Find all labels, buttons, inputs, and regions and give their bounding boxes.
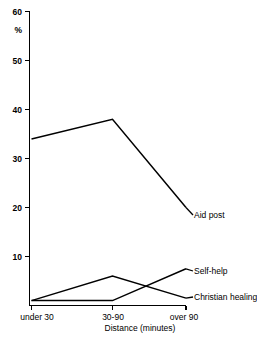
leader-line-christian-healing <box>186 297 193 298</box>
y-tick-label-20: 20 <box>13 203 23 213</box>
x-tick-label-30-90: 30-90 <box>102 312 124 322</box>
y-axis-unit-label: % <box>14 25 22 35</box>
y-tick-label-60: 60 <box>13 7 23 17</box>
series-label-self-help: Self-help <box>194 266 228 276</box>
y-tick-label-40: 40 <box>13 105 23 115</box>
line-chart: 60 50 40 30 20 10 % under 30 30-90 over … <box>0 0 257 338</box>
series-label-christian-healing: Christian healing <box>194 292 257 302</box>
x-axis-title: Distance (minutes) <box>105 323 176 333</box>
series-label-aid-post: Aid post <box>194 210 225 220</box>
series-line-self-help <box>32 269 187 301</box>
series-line-christian-healing <box>32 276 187 301</box>
leader-line-aid-post <box>186 208 193 216</box>
y-tick-label-30: 30 <box>13 154 23 164</box>
chart-canvas: 60 50 40 30 20 10 % under 30 30-90 over … <box>0 0 257 338</box>
x-tick-label-under-30: under 30 <box>20 312 54 322</box>
y-tick-label-50: 50 <box>13 56 23 66</box>
y-tick-label-10: 10 <box>13 252 23 262</box>
leader-line-self-help <box>186 269 193 271</box>
x-tick-label-over-90: over 90 <box>170 312 199 322</box>
series-line-aid-post <box>32 119 187 207</box>
